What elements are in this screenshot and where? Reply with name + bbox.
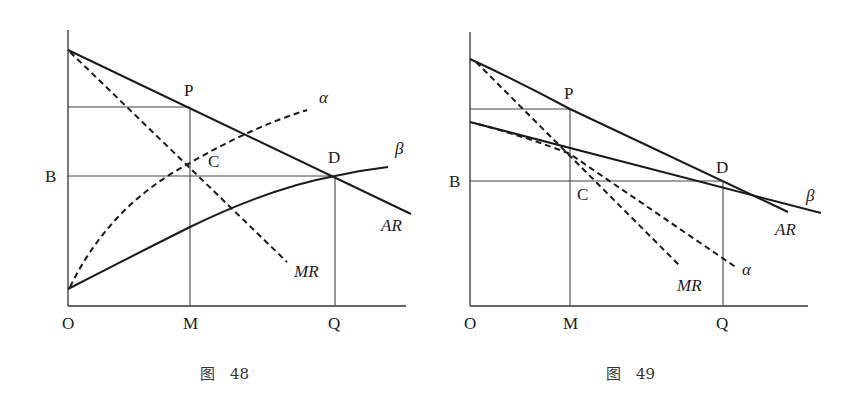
beta-curve xyxy=(470,122,821,213)
figure-caption: 图 48 xyxy=(200,365,249,383)
diagram-canvas: O M Q B P C D α β AR MR 图 48 O M Q B P xyxy=(0,0,855,409)
label-m: M xyxy=(563,314,578,333)
label-alpha: α xyxy=(319,88,329,107)
label-d: D xyxy=(328,148,340,167)
label-mr: MR xyxy=(676,276,702,295)
label-alpha: α xyxy=(742,260,752,279)
figure-48: O M Q B P C D α β AR MR 图 48 xyxy=(45,30,411,383)
label-c: C xyxy=(208,152,219,171)
label-beta: β xyxy=(394,139,404,158)
label-m: M xyxy=(183,314,198,333)
label-b: B xyxy=(45,167,56,186)
label-p: P xyxy=(184,81,193,100)
figure-49: O M Q B P C D α β AR MR 图 49 xyxy=(449,32,821,383)
label-mr: MR xyxy=(293,262,319,281)
label-ar: AR xyxy=(774,220,796,239)
label-b: B xyxy=(449,172,460,191)
mr-curve xyxy=(476,62,680,266)
label-q: Q xyxy=(716,314,728,333)
alpha-curve xyxy=(478,124,737,268)
label-o: O xyxy=(464,314,476,333)
label-d: D xyxy=(716,158,728,177)
label-beta: β xyxy=(805,186,815,205)
beta-curve xyxy=(68,167,388,289)
label-ar: AR xyxy=(380,216,402,235)
label-c: C xyxy=(577,185,588,204)
alpha-curve xyxy=(70,110,307,287)
figure-caption: 图 49 xyxy=(606,365,655,383)
ar-curve xyxy=(68,50,411,214)
label-q: Q xyxy=(328,314,340,333)
label-o: O xyxy=(62,314,74,333)
label-p: P xyxy=(564,84,573,103)
mr-curve xyxy=(70,52,287,262)
